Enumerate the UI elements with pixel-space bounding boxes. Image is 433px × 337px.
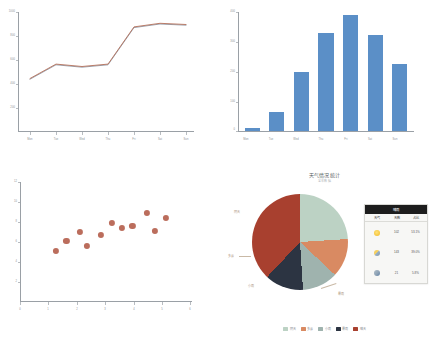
table-cell-days: 21: [387, 271, 406, 275]
bar-x-tick-label: Tue: [259, 139, 283, 142]
line-x-tick-label: Thu: [99, 139, 117, 142]
line-x-tick-label: Sun: [177, 139, 195, 142]
pie-legend-item[interactable]: 小雨: [318, 327, 331, 331]
scatter-x-tick: [190, 302, 191, 305]
scatter-y-tick-label: 2: [6, 281, 17, 284]
rain-icon: [374, 270, 380, 276]
line-x-tick-label: Mon: [21, 139, 39, 142]
pie-legend-item[interactable]: 晴天: [353, 327, 366, 331]
table-cell-weather: [367, 264, 387, 282]
line-y-tick-label: 200: [2, 107, 15, 110]
legend-label: 阴天: [290, 327, 296, 331]
line-y-tick-label: 1000: [2, 11, 15, 14]
scatter-point[interactable]: [77, 229, 83, 235]
scatter-point[interactable]: [84, 243, 90, 249]
scatter-x-tick: [77, 302, 78, 305]
scatter-point[interactable]: [163, 215, 169, 221]
bar-series: [240, 12, 412, 131]
pie-legend: 阴天多云小雨暴雨晴天: [224, 327, 425, 331]
pie-legend-item[interactable]: 暴雨: [336, 327, 349, 331]
bar-y-tick-label: 0: [222, 129, 235, 132]
bar-tue[interactable]: [269, 112, 284, 131]
scatter-series: [20, 182, 192, 302]
bar-x-axis: [238, 131, 414, 132]
scatter-plot-area: 12 10 8 6 4 2 0 1 2 3 4 5 6: [20, 182, 192, 302]
bar-y-tick-label: 400: [222, 11, 235, 14]
pie-chart-panel: 天气情况统计 全年数据 阴天 多云 小雨 暴雨 晴雨 天气 天数 占比 1025…: [216, 168, 433, 337]
bar-mon[interactable]: [245, 128, 260, 131]
scatter-x-tick: [134, 302, 135, 305]
scatter-y-tick-label: 8: [6, 221, 17, 224]
bar-thu[interactable]: [318, 33, 333, 131]
bar-y-tick: [236, 12, 239, 13]
scatter-point[interactable]: [119, 225, 125, 231]
bar-sat[interactable]: [368, 35, 383, 132]
scatter-x-tick-label: 0: [14, 309, 26, 312]
scatter-point[interactable]: [152, 228, 158, 234]
table-body: 10253.1%14339.0%215.8%: [365, 222, 427, 283]
legend-swatch: [353, 327, 358, 330]
table-row[interactable]: 14339.0%: [365, 242, 427, 262]
table-row[interactable]: 10253.1%: [365, 222, 427, 242]
pie-slice-label-cloudy: 多云: [228, 254, 234, 258]
bar-sun[interactable]: [392, 64, 407, 131]
scatter-x-tick: [162, 302, 163, 305]
table-col-days: 天数: [387, 215, 406, 220]
scatter-point[interactable]: [53, 248, 59, 254]
weather-summary-table[interactable]: 晴雨 天气 天数 占比 10253.1%14339.0%215.8%: [364, 204, 428, 284]
bar-slot: [265, 12, 290, 131]
line-x-tick-label: Wed: [73, 139, 91, 142]
bar-slot: [314, 12, 339, 131]
bar-slot: [289, 12, 314, 131]
table-cell-days: 143: [387, 250, 406, 254]
scatter-chart-panel: 12 10 8 6 4 2 0 1 2 3 4 5 6: [0, 168, 216, 337]
bar-x-tick-label: Sat: [358, 139, 382, 142]
table-cell-weather: [367, 223, 387, 241]
scatter-x-tick-label: 4: [128, 309, 140, 312]
legend-label: 小雨: [325, 327, 331, 331]
line-y-tick-label: 400: [2, 83, 15, 86]
bar-y-tick: [236, 42, 239, 43]
legend-label: 暴雨: [342, 327, 348, 331]
table-cell-percent: 5.8%: [406, 271, 425, 275]
pie-slice-label-storm: 暴雨: [338, 292, 344, 296]
scatter-point[interactable]: [129, 223, 135, 229]
scatter-y-tick-label: 10: [6, 201, 17, 204]
line-x-tick: [160, 132, 161, 135]
line-x-tick-label: Sat: [151, 139, 169, 142]
legend-swatch: [336, 327, 341, 330]
bar-chart-panel: 400 300 200 100 0 Mon Tue Wed Thu Fri Sa…: [216, 0, 433, 168]
bar-y-tick: [236, 102, 239, 103]
table-cell-days: 102: [387, 230, 406, 234]
pie-chart-title: 天气情况统计: [216, 171, 433, 178]
bar-slot: [240, 12, 265, 131]
bar-fri[interactable]: [343, 15, 358, 131]
table-header-row: 天气 天数 占比: [365, 214, 427, 222]
table-col-weather: 天气: [367, 215, 387, 220]
bar-x-tick-label: Wed: [284, 139, 308, 142]
line-x-tick-label: Fri: [125, 139, 143, 142]
table-col-percent: 占比: [406, 215, 425, 220]
scatter-x-tick-label: 1: [42, 309, 54, 312]
scatter-point[interactable]: [98, 232, 104, 238]
scatter-point[interactable]: [109, 220, 115, 226]
scatter-y-tick-label: 12: [6, 181, 17, 184]
bar-wed[interactable]: [294, 72, 309, 132]
scatter-point[interactable]: [63, 238, 69, 244]
bar-slot: [363, 12, 388, 131]
bar-y-tick-label: 200: [222, 71, 235, 74]
table-cell-weather: [367, 243, 387, 261]
legend-swatch: [318, 327, 323, 330]
scatter-point[interactable]: [144, 210, 150, 216]
legend-label: 多云: [307, 327, 313, 331]
bar-slot: [338, 12, 363, 131]
bar-x-tick-label: Sun: [383, 139, 407, 142]
line-series-svg: [18, 12, 194, 132]
pie-graphic[interactable]: [252, 194, 348, 290]
pie-legend-item[interactable]: 阴天: [283, 327, 296, 331]
pie-legend-item[interactable]: 多云: [301, 327, 314, 331]
pie-slice-label-light-rain: 小雨: [248, 284, 254, 288]
table-cell-percent: 39.0%: [406, 250, 425, 254]
line-x-tick: [134, 132, 135, 135]
table-row[interactable]: 215.8%: [365, 263, 427, 283]
